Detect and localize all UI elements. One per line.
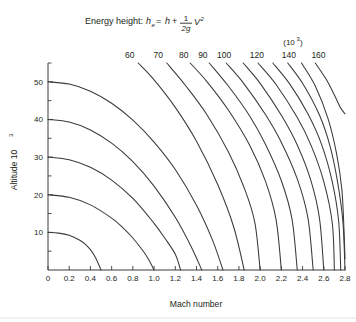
y-axis-label-main: Altitude 10 [9, 149, 19, 190]
x-tick-label: 1.6 [212, 274, 224, 283]
x-tick-label: 1.0 [149, 274, 161, 283]
contour-label-100: 100 [217, 50, 231, 60]
title-v-exponent: 2 [200, 16, 205, 22]
title-h-var: h [165, 16, 170, 26]
title-prefix: Energy height: [85, 16, 143, 26]
title-equals: = [156, 16, 161, 26]
y-tick-label: 20 [34, 191, 43, 200]
exponent-note: (10 3 ) [283, 36, 303, 47]
x-tick-label: 2.2 [276, 274, 288, 283]
y-tick-label: 30 [34, 153, 43, 162]
exponent-note-open: (10 [283, 38, 295, 47]
x-tick-label: 1.8 [233, 274, 245, 283]
x-tick-label: 2.6 [318, 274, 330, 283]
x-axis-label: Mach number [170, 299, 223, 309]
contour-label-160: 160 [311, 50, 325, 60]
contour-label-70: 70 [154, 50, 164, 60]
contour-label-80: 80 [179, 50, 189, 60]
x-tick-label: 0.2 [64, 274, 76, 283]
contour-label-60: 60 [125, 50, 135, 60]
contour-label-120: 120 [250, 50, 264, 60]
y-tick-label: 10 [34, 228, 43, 237]
x-tick-label: 0.8 [127, 274, 139, 283]
title-fraction-denominator: 2g [181, 24, 191, 33]
x-tick-label: 1.2 [170, 274, 182, 283]
x-tick-label: 2.4 [297, 274, 309, 283]
energy-height-chart: Energy height: h e = h + 1 2g V 2 (10 3 … [0, 0, 356, 322]
y-tick-label: 40 [34, 115, 43, 124]
x-tick-label: 2.0 [255, 274, 267, 283]
exponent-note-close: ) [300, 38, 303, 47]
contour-labels: 60708090100120140160 [125, 50, 326, 60]
x-tick-label: 0.4 [85, 274, 97, 283]
x-tick-label: 0 [46, 274, 51, 283]
x-tick-label: 1.4 [191, 274, 203, 283]
y-tick-label: 50 [34, 78, 43, 87]
x-tick-label: 2.8 [339, 274, 351, 283]
x-tick-label: 0.6 [106, 274, 118, 283]
contour-label-90: 90 [198, 50, 208, 60]
contour-label-140: 140 [282, 50, 296, 60]
title-fraction-numerator: 1 [184, 14, 189, 23]
title-he-var: h [146, 16, 151, 26]
title-plus: + [172, 16, 177, 26]
